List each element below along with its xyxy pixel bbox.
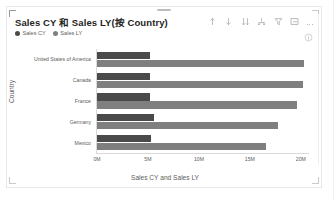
visual-header-toolbar[interactable] bbox=[208, 16, 313, 26]
x-axis-tick-label: 5M bbox=[144, 156, 151, 162]
chart-bar[interactable] bbox=[97, 52, 150, 59]
visual-vertical-scrollbar[interactable] bbox=[317, 8, 320, 188]
y-axis-category-label[interactable]: Germany bbox=[70, 119, 91, 125]
x-axis-tick-label: 10M bbox=[194, 156, 204, 162]
more-options-icon[interactable] bbox=[307, 16, 313, 26]
chart-bar[interactable] bbox=[97, 122, 278, 129]
sort-ascending-icon[interactable] bbox=[208, 17, 217, 26]
focus-mode-icon[interactable] bbox=[290, 17, 299, 26]
y-axis-category-labels[interactable]: United States of AmericaCanadaFranceGerm… bbox=[7, 47, 95, 153]
chart-bar[interactable] bbox=[97, 81, 303, 88]
x-axis-tick-label: 15M bbox=[245, 156, 255, 162]
x-axis-line bbox=[96, 153, 309, 154]
visual-title: Sales CY 和 Sales LY(按 Country) bbox=[15, 15, 168, 29]
bar-chart-visual[interactable]: Sales CY 和 Sales LY(按 Country) Sales CY … bbox=[6, 6, 322, 188]
legend-item-sales-cy[interactable]: Sales CY bbox=[15, 30, 46, 36]
visual-resize-handle[interactable] bbox=[157, 9, 171, 11]
x-axis-title-text: Sales CY and Sales LY bbox=[131, 174, 199, 181]
legend-swatch-sales-ly bbox=[53, 31, 58, 36]
filter-icon[interactable] bbox=[274, 17, 283, 26]
y-axis-category-label[interactable]: Canada bbox=[73, 77, 91, 83]
legend-item-sales-ly[interactable]: Sales LY bbox=[53, 30, 82, 36]
chart-bar[interactable] bbox=[97, 135, 151, 142]
y-axis-category-label[interactable]: United States of America bbox=[34, 56, 91, 62]
chart-bar[interactable] bbox=[97, 114, 154, 121]
x-axis-tick-labels: 0M5M10M15M20M bbox=[7, 156, 323, 168]
sort-descending-icon[interactable] bbox=[224, 17, 233, 26]
drill-hierarchy-icon[interactable] bbox=[257, 17, 266, 26]
legend-label-sales-cy: Sales CY bbox=[23, 30, 46, 36]
chart-plot-area[interactable]: Country United States of AmericaCanadaFr… bbox=[7, 47, 323, 189]
chart-bar[interactable] bbox=[97, 101, 297, 108]
sort-bars-icon[interactable] bbox=[241, 17, 250, 26]
x-axis-tick-label: 20M bbox=[296, 156, 306, 162]
chart-bars[interactable] bbox=[97, 47, 309, 153]
info-icon[interactable] bbox=[304, 33, 313, 42]
x-axis-tick-label: 0M bbox=[93, 156, 100, 162]
legend-label-sales-ly: Sales LY bbox=[60, 30, 82, 36]
x-axis-title: Sales CY and Sales LY bbox=[7, 174, 323, 181]
chart-bar[interactable] bbox=[97, 73, 150, 80]
legend-swatch-sales-cy bbox=[15, 31, 20, 36]
chart-bar[interactable] bbox=[97, 60, 304, 67]
chart-bar[interactable] bbox=[97, 143, 266, 150]
chart-legend[interactable]: Sales CY Sales LY bbox=[15, 30, 82, 36]
y-axis-category-label[interactable]: Mexico bbox=[75, 140, 91, 146]
chart-bar[interactable] bbox=[97, 93, 150, 100]
y-axis-category-label[interactable]: France bbox=[75, 98, 91, 104]
